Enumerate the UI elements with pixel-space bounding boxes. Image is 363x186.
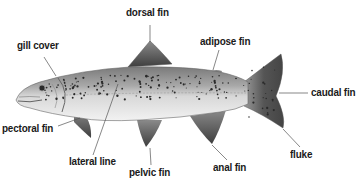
- spot: [121, 88, 123, 90]
- spot: [222, 82, 224, 84]
- spot: [209, 90, 210, 91]
- spot: [176, 97, 177, 98]
- spot: [199, 82, 201, 84]
- spot: [273, 109, 275, 111]
- spot: [198, 98, 200, 100]
- spot: [215, 87, 217, 89]
- spot: [124, 98, 126, 100]
- spot: [151, 79, 153, 81]
- spot: [80, 93, 82, 95]
- spot: [139, 91, 141, 93]
- spot: [228, 82, 230, 84]
- spot: [63, 80, 64, 81]
- spot: [151, 77, 153, 79]
- spot: [158, 75, 159, 76]
- spot: [218, 88, 220, 90]
- spot: [98, 93, 99, 94]
- leader-adipose-fin: [213, 50, 219, 70]
- spot: [224, 91, 225, 92]
- spot: [73, 93, 75, 95]
- spot: [108, 84, 109, 85]
- spot: [158, 85, 160, 87]
- spot: [96, 89, 98, 91]
- spot: [266, 107, 268, 109]
- spot: [196, 86, 197, 87]
- spot: [267, 113, 269, 115]
- spot: [175, 79, 177, 81]
- spot: [210, 88, 212, 90]
- label-lateral-line: lateral line: [69, 155, 116, 167]
- spot: [103, 90, 105, 92]
- spot: [82, 77, 84, 79]
- spot: [45, 99, 47, 101]
- spot: [226, 92, 227, 93]
- spot: [139, 83, 141, 85]
- spot: [265, 93, 266, 94]
- spot: [109, 75, 111, 77]
- spot: [97, 83, 99, 85]
- spot: [134, 78, 136, 80]
- label-caudal-fin: caudal fin: [311, 86, 355, 98]
- spot: [170, 82, 171, 83]
- spot: [199, 81, 200, 82]
- spot: [248, 90, 249, 91]
- spot: [267, 112, 268, 113]
- spot: [206, 93, 207, 94]
- spot: [253, 93, 255, 95]
- spot: [194, 77, 195, 78]
- spot: [106, 93, 108, 95]
- spot: [157, 75, 159, 77]
- spot: [172, 90, 174, 92]
- spot: [174, 91, 176, 93]
- spot: [102, 85, 104, 87]
- spot: [157, 79, 159, 81]
- spot: [50, 86, 52, 88]
- spot: [64, 83, 65, 84]
- spot: [115, 80, 117, 82]
- spot: [272, 100, 273, 101]
- spot: [189, 83, 190, 84]
- spot: [101, 78, 102, 79]
- spot: [188, 75, 190, 77]
- spot: [201, 92, 202, 93]
- spot: [148, 85, 149, 86]
- spot: [145, 83, 147, 85]
- spot: [74, 85, 76, 87]
- spot: [211, 82, 212, 83]
- spot: [127, 75, 129, 77]
- spot: [55, 98, 57, 100]
- spot: [274, 69, 275, 70]
- spot: [76, 81, 77, 82]
- spot: [195, 75, 197, 77]
- spot: [120, 75, 121, 76]
- leader-anal-fin: [212, 145, 227, 160]
- spot: [72, 97, 74, 99]
- spot: [149, 98, 151, 100]
- spot: [200, 78, 201, 79]
- spot: [166, 87, 168, 89]
- spot: [249, 83, 250, 84]
- spot: [235, 78, 236, 79]
- spot: [214, 82, 216, 84]
- spot: [77, 81, 78, 82]
- label-adipose-fin: adipose fin: [200, 35, 250, 47]
- spot: [243, 85, 244, 86]
- spot: [150, 96, 151, 97]
- spot: [216, 90, 218, 92]
- spot: [70, 85, 71, 86]
- spot: [98, 92, 99, 93]
- spot: [88, 86, 90, 88]
- spot: [263, 66, 264, 67]
- spot: [265, 98, 266, 99]
- spot: [65, 86, 66, 87]
- spot: [66, 89, 67, 90]
- spot: [94, 85, 96, 87]
- spot: [136, 95, 137, 96]
- spot: [157, 88, 158, 89]
- spot: [116, 95, 118, 97]
- spot: [225, 97, 227, 99]
- spot: [83, 95, 85, 97]
- spot: [99, 92, 101, 94]
- spot: [48, 83, 49, 84]
- spot: [183, 83, 185, 85]
